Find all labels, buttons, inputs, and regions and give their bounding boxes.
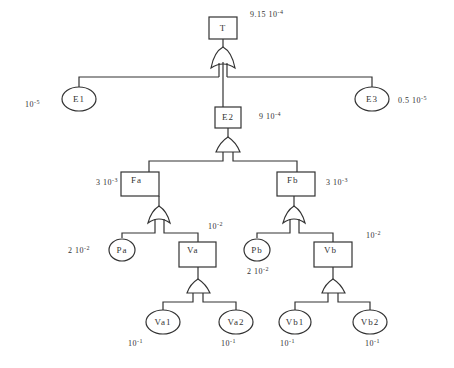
node-E2[interactable]: E2 (215, 107, 241, 128)
node-Pb[interactable]: Pb (244, 239, 270, 261)
or-gate-icon (148, 206, 170, 223)
node-Fb[interactable]: Fb (277, 172, 315, 196)
and-gate-icon (322, 279, 345, 293)
node-label-E1: E1 (73, 94, 85, 104)
node-Vb1[interactable]: Vb1 (279, 310, 311, 334)
or-gate-icon (283, 206, 305, 223)
connector (203, 293, 236, 310)
prob-Fa: 3 10-3 (96, 177, 118, 187)
prob-Vb2: 10-1 (365, 338, 380, 348)
node-label-Va: Va (187, 245, 199, 255)
prob-Va1: 10-1 (128, 338, 143, 348)
node-label-Vb1: Vb1 (286, 317, 305, 327)
fault-tree-diagram: T 9.15 10-4 E1 10-5 E3 0.5 10-5 E2 9 10-… (0, 0, 454, 368)
node-label-Fa: Fa (131, 175, 142, 185)
node-label-Pb: Pb (251, 245, 263, 255)
node-Pa[interactable]: Pa (109, 239, 135, 261)
prob-E2: 9 10-4 (259, 111, 281, 121)
and-gate-icon (216, 137, 240, 152)
node-label-E2: E2 (222, 112, 234, 122)
node-Va1[interactable]: Va1 (146, 310, 180, 334)
connector (338, 293, 370, 310)
node-label-Fb: Fb (287, 175, 299, 185)
node-label-E3: E3 (366, 94, 378, 104)
prob-Va: 10-2 (208, 221, 223, 231)
connector (233, 152, 297, 173)
prob-Vb1: 10-1 (280, 338, 295, 348)
connector (149, 152, 223, 173)
node-label-T: T (220, 23, 227, 33)
connector (295, 293, 328, 310)
and-gate-icon (187, 279, 210, 293)
prob-E3: 0.5 10-5 (398, 95, 427, 105)
prob-E1: 10-5 (25, 99, 40, 109)
node-T[interactable]: T (209, 17, 237, 39)
prob-T: 9.15 10-4 (250, 9, 284, 19)
node-Vb2[interactable]: Vb2 (353, 310, 387, 334)
node-label-Vb2: Vb2 (361, 317, 380, 327)
node-E1[interactable]: E1 (62, 87, 96, 111)
node-Va[interactable]: Va (179, 242, 216, 267)
node-Fa[interactable]: Fa (121, 172, 159, 196)
prob-Vb: 10-2 (366, 230, 381, 240)
prob-Pb: 2 10-2 (247, 266, 269, 276)
prob-Va2: 10-1 (221, 338, 236, 348)
connector (227, 77, 372, 87)
prob-Pa: 2 10-2 (68, 245, 90, 255)
node-label-Va1: Va1 (155, 317, 172, 327)
connector (163, 293, 193, 310)
connector (79, 77, 219, 87)
node-Va2[interactable]: Va2 (219, 310, 253, 334)
node-E3[interactable]: E3 (355, 87, 389, 111)
node-label-Vb: Vb (324, 245, 337, 255)
node-Vb[interactable]: Vb (314, 242, 352, 267)
prob-Fb: 3 10-3 (326, 177, 348, 187)
node-label-Va2: Va2 (228, 317, 245, 327)
node-label-Pa: Pa (117, 245, 128, 255)
